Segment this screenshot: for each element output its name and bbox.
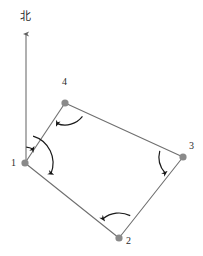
vertex-label-3: 3 bbox=[189, 141, 194, 151]
angle-arc-1-north-to-2 bbox=[33, 136, 53, 173]
north-direction-label: 北 bbox=[20, 11, 31, 22]
vertex-label-2: 2 bbox=[126, 236, 131, 246]
angle-arc-2-3-to-1 bbox=[103, 213, 130, 219]
vertex-point-4 bbox=[61, 99, 68, 106]
edge-2-1 bbox=[25, 163, 119, 238]
vertex-label-1: 1 bbox=[11, 158, 16, 168]
edge-3-2 bbox=[119, 157, 183, 238]
traverse-diagram: 北 1 2 3 4 bbox=[0, 0, 203, 256]
angle-arc-4-3-to-1 bbox=[57, 116, 82, 125]
angle-arcs bbox=[26, 116, 165, 218]
vertex-label-4: 4 bbox=[62, 77, 67, 87]
diagram-canvas bbox=[0, 0, 203, 256]
edge-1-4 bbox=[25, 103, 65, 163]
vertex-point-1 bbox=[21, 159, 28, 166]
vertex-point-2 bbox=[115, 234, 122, 241]
angle-arc-1-north-to-4 bbox=[26, 147, 33, 149]
angle-arc-3-4-to-2 bbox=[159, 151, 165, 173]
edge-4-3 bbox=[65, 103, 183, 157]
vertex-point-3 bbox=[179, 153, 186, 160]
